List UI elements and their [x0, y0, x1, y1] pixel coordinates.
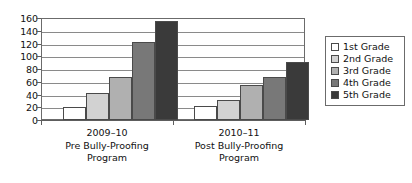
legend-label: 1st Grade [343, 42, 390, 52]
y-axis-label: 80 [4, 65, 38, 75]
legend-item-3rd-grade: 3rd Grade [331, 65, 400, 77]
y-axis-label: 60 [4, 78, 38, 88]
y-axis-label: 20 [4, 103, 38, 113]
bar-2010-11-1st-grade [194, 106, 217, 120]
y-axis-label: 160 [4, 14, 38, 24]
legend-label: 3rd Grade [343, 66, 391, 76]
x-axis-tick [173, 120, 174, 125]
x-axis-group-sublabel-line2: Program [41, 152, 173, 165]
bar-2010-11-5th-grade [286, 62, 309, 120]
x-axis-group-sublabel-line1: Post Bully-Proofing [173, 140, 305, 153]
y-axis-label: 0 [4, 116, 38, 126]
legend-item-1st-grade: 1st Grade [331, 41, 400, 53]
legend: 1st Grade 2nd Grade 3rd Grade 4th Grade … [325, 36, 405, 106]
x-axis-group-year: 2009–10 [41, 127, 173, 140]
x-axis-group-label-2009-10: 2009–10 Pre Bully-Proofing Program [41, 127, 173, 165]
legend-swatch-icon [331, 55, 339, 63]
x-axis-group-sublabel-line2: Program [173, 152, 305, 165]
bar-2009-10-5th-grade [155, 21, 178, 120]
bar-2010-11-4th-grade [263, 77, 286, 120]
y-axis-label: 140 [4, 27, 38, 37]
bar-2010-11-3rd-grade [240, 85, 263, 120]
bar-2009-10-1st-grade [63, 107, 86, 120]
legend-swatch-icon [331, 43, 339, 51]
x-axis-tick [41, 120, 42, 125]
y-axis-label: 100 [4, 52, 38, 62]
bar-2009-10-4th-grade [132, 42, 155, 120]
legend-item-5th-grade: 5th Grade [331, 89, 400, 101]
legend-label: 5th Grade [343, 90, 391, 100]
bars-layer [41, 18, 305, 120]
y-axis-label: 40 [4, 91, 38, 101]
bar-2009-10-3rd-grade [109, 77, 132, 120]
x-axis-group-sublabel-line1: Pre Bully-Proofing [41, 140, 173, 153]
x-axis-group-year: 2010–11 [173, 127, 305, 140]
y-axis-label: 120 [4, 40, 38, 50]
x-axis-group-label-2010-11: 2010–11 Post Bully-Proofing Program [173, 127, 305, 165]
legend-swatch-icon [331, 67, 339, 75]
legend-label: 2nd Grade [343, 54, 393, 64]
bar-2010-11-2nd-grade [217, 100, 240, 120]
legend-item-4th-grade: 4th Grade [331, 77, 400, 89]
legend-label: 4th Grade [343, 78, 391, 88]
bar-2009-10-2nd-grade [86, 93, 109, 120]
bar-chart: 160 140 120 100 80 60 40 20 0 2009–10 Pr… [0, 0, 412, 183]
legend-item-2nd-grade: 2nd Grade [331, 53, 400, 65]
x-axis-tick [305, 120, 306, 125]
legend-swatch-icon [331, 79, 339, 87]
legend-swatch-icon [331, 91, 339, 99]
